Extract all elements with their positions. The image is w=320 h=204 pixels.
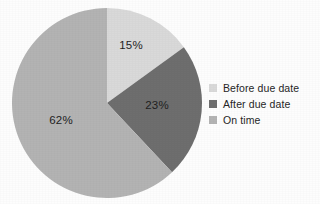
legend-label-before-due-date: Before due date (223, 82, 299, 94)
legend-item-on-time[interactable]: On time (209, 112, 320, 128)
legend-swatch-icon-before-due-date (209, 84, 217, 92)
legend-swatch-icon-after-due-date (209, 100, 217, 108)
legend-item-after-due-date[interactable]: After due date (209, 96, 320, 112)
pie-label-after-due-date: 23% (145, 99, 169, 111)
pie-chart-figure: 15% 23% 62% Before due date After due da… (0, 0, 320, 204)
legend-swatch-icon-on-time (209, 116, 217, 124)
pie-label-on-time: 62% (49, 114, 73, 126)
legend-item-before-due-date[interactable]: Before due date (209, 80, 320, 96)
pie-label-before-due-date: 15% (119, 39, 143, 51)
legend-label-on-time: On time (223, 114, 260, 126)
legend-label-after-due-date: After due date (223, 98, 290, 110)
pie-slices (12, 8, 202, 198)
chart-legend: Before due date After due date On time (209, 80, 320, 128)
